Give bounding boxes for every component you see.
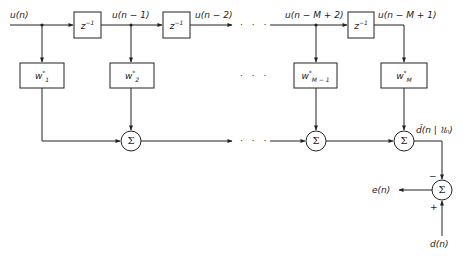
junction-dot-2 [129,23,132,26]
tap-label-4: u(n − M + 1) [378,11,436,20]
delay-exp: −1 [174,19,183,26]
weight-base: w [301,71,308,81]
estimate-label: d̂(n | 𝔘ₙ) [416,126,453,135]
delay-exp: −1 [85,19,94,26]
tap-label-1: u(n − 1) [112,11,149,20]
weight-base: w [396,71,403,81]
tap-label-2: u(n − 2) [195,11,232,20]
weight-index: 1 [45,76,49,83]
sigma-3: Σ [394,136,414,146]
weight-index: M [407,76,412,83]
weight-label-1: w*1 [20,70,64,83]
ellipsis-bottom: · · · [240,137,269,146]
delay-label-3: z−1 [348,20,374,31]
delay-label-1: z−1 [74,20,101,31]
delay-exp: −1 [359,19,368,26]
weight-label-m-1: w*M − 1 [294,70,337,83]
sigma-error: Σ [432,185,452,195]
weight-label-m: w*M [381,70,427,83]
weight-label-2: w*2 [110,70,154,83]
desired-label: d(n) [430,240,448,249]
error-label: e(n) [372,186,390,195]
junction-dot-1 [40,23,43,26]
ellipsis-top: · · · [240,21,269,30]
weight-index: 2 [135,76,139,83]
plus-sign: + [430,203,438,212]
weight-index: M − 1 [312,76,330,83]
ellipsis-middle: · · · [240,72,269,81]
input-signal-label: u(n) [10,11,28,20]
junction-dot-3 [314,23,317,26]
minus-sign: − [429,172,437,181]
tap-label-3: u(n − M + 2) [285,11,343,20]
sigma-2: Σ [306,136,326,146]
delay-label-2: z−1 [163,20,190,31]
sigma-1: Σ [121,136,141,146]
filter-diagram [0,0,467,256]
